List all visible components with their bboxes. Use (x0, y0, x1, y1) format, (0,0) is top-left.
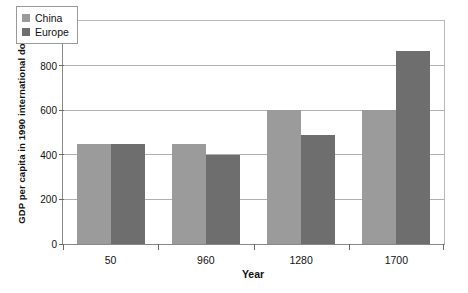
x-axis-tick-mark (349, 244, 350, 250)
bar-europe-1280 (301, 135, 335, 244)
legend-label-china: China (35, 12, 62, 24)
x-axis-title: Year (62, 268, 444, 280)
y-axis-tick-label: 400 (40, 149, 57, 160)
gridline (63, 65, 444, 66)
x-axis-tick-label-960: 960 (197, 254, 215, 266)
legend-swatch-europe-icon (22, 28, 30, 36)
legend-item-europe: Europe (22, 25, 69, 39)
y-axis-tick-mark (59, 110, 64, 111)
bar-europe-50 (111, 144, 145, 244)
x-axis-tick-label-1280: 1280 (289, 254, 312, 266)
legend-swatch-china-icon (22, 14, 30, 22)
y-axis-tick-label: 200 (40, 194, 57, 205)
bar-chart-figure: GDP per capita in 1990 international dol… (0, 0, 468, 293)
x-axis-tick-label-50: 50 (105, 254, 117, 266)
y-axis-tick-label: 600 (40, 105, 57, 116)
bar-china-50 (77, 144, 111, 244)
bar-china-960 (172, 144, 206, 244)
bar-europe-960 (206, 155, 240, 244)
x-axis-tick-mark (158, 244, 159, 250)
plot-area: 02004006008001,0005096012801700 (62, 20, 445, 245)
legend-item-china: China (22, 11, 69, 25)
chart-legend: China Europe (16, 6, 78, 44)
x-axis-tick-label-1700: 1700 (385, 254, 408, 266)
legend-label-europe: Europe (35, 26, 69, 38)
bar-europe-1700 (396, 51, 430, 244)
y-axis-tick-mark (59, 65, 64, 66)
y-axis-tick-label: 0 (51, 239, 57, 250)
x-axis-tick-mark (63, 244, 64, 250)
y-axis-tick-label: 800 (40, 60, 57, 71)
y-axis-tick-mark (59, 154, 64, 155)
x-axis-tick-mark (254, 244, 255, 250)
y-axis-tick-mark (59, 199, 64, 200)
x-axis-tick-mark (443, 244, 444, 250)
bar-china-1280 (267, 110, 301, 244)
bar-china-1700 (362, 110, 396, 244)
